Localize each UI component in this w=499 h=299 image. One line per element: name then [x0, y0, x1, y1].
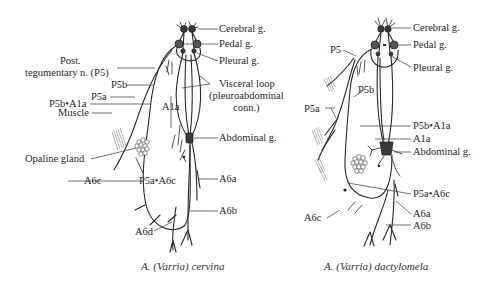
label-p5a-a6c-right: P5a•A6c — [413, 188, 450, 199]
right-labels: Cerebral g. Pedal g. Pleural g. P5 P5b P… — [304, 22, 471, 231]
left-diagram-cervina — [68, 22, 218, 252]
cerebral-ganglia-icon-right — [375, 18, 395, 32]
label-opaline-gland: Opaline gland — [25, 153, 85, 164]
label-a6c: A6c — [84, 175, 102, 186]
label-p5a: P5a — [91, 91, 107, 102]
label-post-tegumentary: tegumentary n. (P5) — [25, 67, 109, 79]
pleural-ganglia-icon-right — [376, 52, 393, 56]
label-p5a-right: P5a — [304, 103, 320, 114]
label-pedal-g: Pedal g. — [219, 38, 253, 49]
pedal-ganglia-icon — [175, 40, 201, 48]
left-labels: Cerebral g. Pedal g. Pleural g. Post. te… — [25, 23, 284, 237]
label-p5b: P5b — [111, 79, 127, 90]
caption-dactylomela: A. (Varria) dactylomela — [323, 260, 429, 273]
label-cerebral-g: Cerebral g. — [219, 23, 266, 34]
label-conn: conn.) — [233, 102, 260, 114]
label-post: Post. — [60, 55, 81, 66]
muscle-patch-icon — [112, 128, 126, 150]
label-abdominal-g-right: Abdominal g. — [413, 146, 471, 157]
label-pleuroabdominal: (pleuroabdominal — [209, 90, 284, 102]
label-a6a-right: A6a — [413, 208, 431, 219]
pedal-ganglia-icon-right — [371, 41, 398, 49]
label-pleural-g: Pleural g. — [219, 55, 259, 66]
label-pedal-g-right: Pedal g. — [413, 39, 447, 50]
label-a1a: A1a — [162, 101, 180, 112]
abdominal-ganglion-icon-right — [380, 142, 393, 155]
cerebral-ganglia-icon — [177, 22, 198, 32]
opaline-gland-icon-right — [351, 155, 368, 174]
right-diagram-dactylomela — [312, 18, 411, 246]
label-p5b-right: P5b — [358, 84, 374, 95]
label-abdominal-g: Abdominal g. — [219, 132, 277, 143]
nervous-system-figure: Cerebral g. Pedal g. Pleural g. Post. te… — [0, 0, 499, 299]
label-a6d: A6d — [135, 226, 154, 237]
muscle-patch-icons-right — [312, 76, 335, 181]
label-p5-right: P5 — [330, 44, 341, 55]
label-a6b-right: A6b — [413, 220, 431, 231]
label-a6a: A6a — [219, 173, 237, 184]
label-muscle: Muscle — [58, 107, 89, 118]
label-a1a-right: A1a — [413, 133, 431, 144]
label-visceral-loop: Visceral loop — [219, 78, 275, 89]
label-p5a-a6c: P5a•A6c — [139, 175, 176, 186]
label-pleural-g-right: Pleural g. — [413, 62, 453, 73]
caption-cervina: A. (Varria) cervina — [140, 260, 225, 273]
label-a6c-right: A6c — [304, 212, 322, 223]
abdominal-ganglion-icon — [186, 133, 193, 143]
opaline-gland-icon — [135, 138, 149, 156]
label-p5b-a1a-right: P5b•A1a — [413, 120, 451, 131]
label-a6b: A6b — [219, 205, 237, 216]
label-cerebral-g-right: Cerebral g. — [413, 22, 460, 33]
